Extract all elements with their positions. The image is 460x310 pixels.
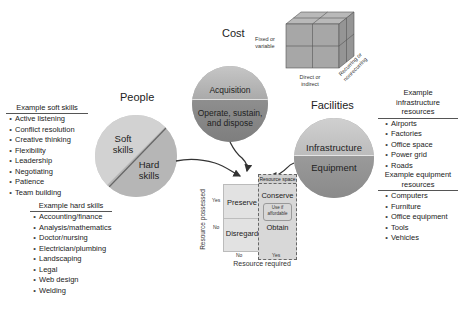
x-axis-label: Resource required	[226, 260, 298, 267]
y-no-label: No	[213, 224, 219, 230]
use-if-line: affordable	[264, 211, 291, 217]
cell-preserve: Preserve	[224, 198, 260, 207]
x-yes-label: Yes	[272, 252, 280, 258]
cell-obtain: Obtain	[259, 223, 296, 232]
y-yes-label: Yes	[212, 197, 220, 203]
use-if-affordable-box: Use if affordable	[263, 203, 292, 221]
x-no-label: No	[236, 252, 242, 258]
resource-space-label: Resource space	[259, 175, 296, 184]
cell-disregard: Disregard	[224, 229, 260, 238]
resource-space-column: Resource space Conserve Use if affordabl…	[258, 174, 297, 260]
resource-matrix: Resource possessed Yes No Preserve Disre…	[196, 172, 296, 282]
cell-conserve: Conserve	[259, 191, 296, 200]
y-axis-label: Resource possessed	[199, 180, 206, 260]
